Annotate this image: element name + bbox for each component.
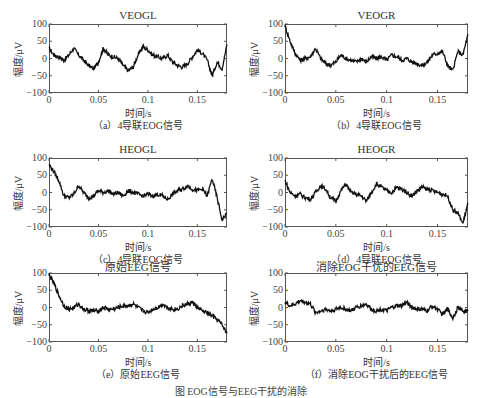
x-tick-label: 0.15 <box>423 94 453 105</box>
panel-caption: （e）原始EEG信号 <box>49 366 227 381</box>
y-tick-label: 100 <box>268 18 283 29</box>
x-tick-label: 0.15 <box>423 343 453 354</box>
x-tick-label: 0.1 <box>372 343 402 354</box>
y-axis-label: 幅度/μV <box>10 163 25 223</box>
panel-title: 原始EEG信号 <box>49 258 227 274</box>
plot-area <box>49 158 227 227</box>
figure-caption: 图 EOG信号与EEG干扰的消除 <box>0 383 482 398</box>
signal-line <box>285 180 468 223</box>
plot-area <box>285 24 468 93</box>
panel-title: VEOGL <box>49 9 227 21</box>
y-tick-label: 0 <box>278 53 283 64</box>
x-tick-label: 0.1 <box>133 228 163 239</box>
panel-title: HEOGR <box>285 143 468 155</box>
x-tick-label: 0.05 <box>83 228 113 239</box>
y-tick-label: 100 <box>268 152 283 163</box>
y-tick-label: 100 <box>32 267 47 278</box>
x-tick-label: 0 <box>270 343 300 354</box>
y-tick-label: 0 <box>42 53 47 64</box>
panel-title: 消除EOG干优的EEG信号 <box>285 258 468 274</box>
x-tick-label: 0.1 <box>133 94 163 105</box>
y-tick-label: 100 <box>268 267 283 278</box>
x-tick-label: 0 <box>34 343 64 354</box>
panel-caption: （f）消除EOG干扰后的EEG信号 <box>285 366 468 381</box>
y-tick-label: −50 <box>31 204 47 215</box>
y-tick-label: 50 <box>273 284 283 295</box>
signal-line <box>49 165 227 221</box>
y-tick-label: 50 <box>37 35 47 46</box>
x-tick-label: 0.05 <box>321 343 351 354</box>
y-tick-label: 50 <box>273 35 283 46</box>
x-tick-label: 0.05 <box>83 343 113 354</box>
y-axis-label: 幅度/μV <box>246 278 261 338</box>
y-tick-label: −50 <box>267 70 283 81</box>
x-tick-label: 0 <box>34 228 64 239</box>
y-tick-label: 50 <box>37 284 47 295</box>
signal-line <box>285 26 468 70</box>
y-tick-label: 0 <box>278 302 283 313</box>
x-tick-label: 0 <box>270 94 300 105</box>
panel-title: VEOGR <box>285 9 468 21</box>
y-tick-label: 100 <box>32 18 47 29</box>
x-tick-label: 0.1 <box>133 343 163 354</box>
y-tick-label: 0 <box>42 187 47 198</box>
y-tick-label: −50 <box>267 204 283 215</box>
plot-area <box>49 273 227 342</box>
axes-frame <box>50 25 227 93</box>
plot-area <box>285 158 468 227</box>
y-axis-label: 幅度/μV <box>246 29 261 89</box>
y-tick-label: 0 <box>278 187 283 198</box>
y-tick-label: 50 <box>37 169 47 180</box>
panel-title: HEOGL <box>49 143 227 155</box>
x-tick-label: 0.05 <box>321 94 351 105</box>
x-tick-label: 0.05 <box>321 228 351 239</box>
x-tick-label: 0.15 <box>423 228 453 239</box>
signal-line <box>49 273 227 333</box>
plot-area <box>49 24 227 93</box>
y-tick-label: −50 <box>31 319 47 330</box>
x-tick-label: 0 <box>34 94 64 105</box>
x-tick-label: 0.1 <box>372 94 402 105</box>
signal-line <box>49 45 227 76</box>
x-tick-label: 0.1 <box>372 228 402 239</box>
x-tick-label: 0.15 <box>182 228 212 239</box>
y-axis-label: 幅度/μV <box>246 163 261 223</box>
y-tick-label: 50 <box>273 169 283 180</box>
signal-line <box>285 300 468 320</box>
x-tick-label: 0.15 <box>182 94 212 105</box>
plot-area <box>285 273 468 342</box>
x-tick-label: 0.15 <box>182 343 212 354</box>
y-tick-label: 100 <box>32 152 47 163</box>
y-axis-label: 幅度/μV <box>10 29 25 89</box>
x-tick-label: 0.05 <box>83 94 113 105</box>
x-tick-label: 0 <box>270 228 300 239</box>
panel-caption: （a）4导联EOG信号 <box>49 117 227 132</box>
panel-caption: （b）4导联EOG信号 <box>285 117 468 132</box>
y-tick-label: −50 <box>31 70 47 81</box>
y-tick-label: 0 <box>42 302 47 313</box>
y-axis-label: 幅度/μV <box>10 278 25 338</box>
y-tick-label: −50 <box>267 319 283 330</box>
